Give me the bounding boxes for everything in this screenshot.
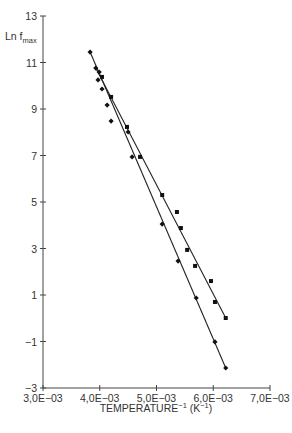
diamond-marker [99, 86, 104, 91]
diamond-marker [212, 339, 217, 344]
fit-lines [90, 52, 226, 368]
x-axis-title: TEMPERATURE−1 (K−1) [100, 401, 213, 414]
y-axis-title: Ln fmax [5, 30, 37, 45]
square-marker [125, 125, 129, 129]
chart: 131197531−1−3 3,0E−034,0E−035,0E−036,0E−… [0, 0, 292, 433]
fit-line [90, 52, 226, 368]
y-tick-label: 11 [26, 57, 37, 69]
y-tick-label: 9 [31, 103, 37, 115]
square-marker [224, 316, 228, 320]
diamond-marker [175, 258, 180, 263]
square-marker [209, 279, 213, 283]
x-tick-label: 7,0E−03 [250, 392, 290, 404]
y-tick-label: 13 [25, 10, 37, 22]
y-axis: 131197531−1−3 [25, 10, 46, 394]
y-tick-label: 3 [31, 243, 37, 255]
y-tick-label: 1 [31, 289, 37, 301]
y-tick-label: −1 [25, 336, 37, 348]
square-marker [179, 226, 183, 230]
square-marker [185, 248, 189, 252]
y-tick-label: 5 [31, 196, 37, 208]
x-tick-label: 3,0E−03 [23, 392, 63, 404]
square-marker [193, 264, 197, 268]
diamond-marker [223, 365, 228, 370]
y-tick-label: 7 [31, 150, 37, 162]
diamond-marker [109, 118, 114, 123]
square-marker [160, 193, 164, 197]
square-marker [109, 95, 113, 99]
diamond-marker [160, 221, 165, 226]
square-marker [175, 210, 179, 214]
square-marker [213, 300, 217, 304]
square-marker [138, 155, 142, 159]
diamond-marker [95, 77, 100, 82]
diamond-marker [105, 102, 110, 107]
square-marker [100, 75, 104, 79]
diamond-marker [88, 49, 93, 54]
